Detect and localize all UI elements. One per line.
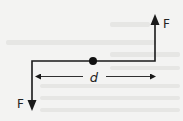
arrow-down-icon [28,100,37,111]
force-bottom-label: F [17,97,24,111]
pivot-point [89,57,97,65]
arrow-up-icon [151,14,160,25]
force-top-label: F [163,17,170,31]
distance-label: d [90,70,99,85]
force-couple-diagram: d F F [0,0,183,121]
